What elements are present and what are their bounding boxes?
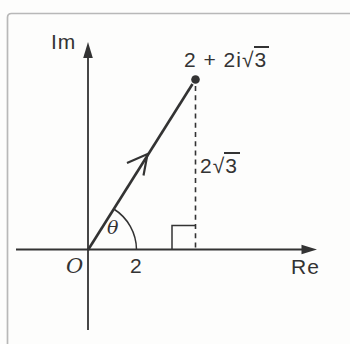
im-axis-label: Im — [51, 31, 76, 52]
point-label-radicand: 3 — [254, 46, 270, 70]
angle-label: θ — [107, 218, 119, 237]
imaginary-height-label: 2√3 — [200, 152, 240, 176]
right-angle-mark — [172, 226, 195, 250]
frame-border — [8, 14, 350, 344]
complex-plane-figure: Im 2 + 2i√3 2√3 θ O 2 Re — [0, 0, 350, 344]
re-axis-label: Re — [291, 256, 320, 277]
point-dot — [191, 75, 200, 84]
point-label: 2 + 2i√3 — [184, 46, 269, 70]
origin-label: O — [66, 256, 84, 277]
im-axis-arrowhead-icon — [83, 42, 93, 58]
height-label-radicand: 3 — [224, 152, 240, 176]
real-tick-label: 2 — [130, 255, 143, 276]
height-label-prefix: 2 — [200, 154, 213, 177]
re-axis-arrowhead-icon — [302, 245, 318, 255]
point-label-prefix: 2 + 2i — [184, 48, 242, 71]
